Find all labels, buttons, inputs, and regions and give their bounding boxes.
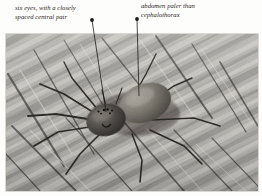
annotation-label-six-eyes: six eyes, with a closely spaced central … <box>15 5 107 22</box>
annotation-label-abdomen-paler: abdomen paler than cephalothorax <box>141 3 237 20</box>
figure-root: six eyes, with a closely spaced central … <box>0 0 262 196</box>
photograph-canvas <box>6 34 258 191</box>
spider-photograph <box>6 34 258 191</box>
photo-vignette <box>6 34 258 191</box>
leader-dot-abdomen-paler <box>135 17 139 21</box>
